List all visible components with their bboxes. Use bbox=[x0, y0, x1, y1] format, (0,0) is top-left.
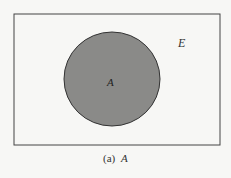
set-a-label: A bbox=[106, 76, 114, 88]
caption-set: A bbox=[120, 152, 128, 164]
universe-label: E bbox=[177, 36, 186, 50]
caption-prefix: (a) bbox=[103, 152, 116, 165]
venn-diagram: E A (a) A bbox=[0, 0, 231, 178]
